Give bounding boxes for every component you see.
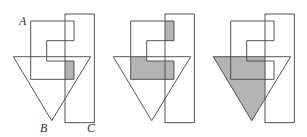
label-b: B — [40, 121, 48, 135]
venn-shapes-figure: A B C — [0, 0, 307, 137]
triangle-b — [13, 57, 90, 121]
shaded-region — [65, 14, 94, 123]
label-c: C — [87, 121, 96, 135]
shaded-region — [213, 57, 290, 121]
panel-1: A B C — [13, 14, 96, 135]
panel-3 — [213, 14, 294, 123]
label-a: A — [18, 14, 27, 28]
shaded-region — [113, 57, 190, 121]
panel-2 — [113, 14, 194, 123]
rect-c — [265, 14, 294, 123]
